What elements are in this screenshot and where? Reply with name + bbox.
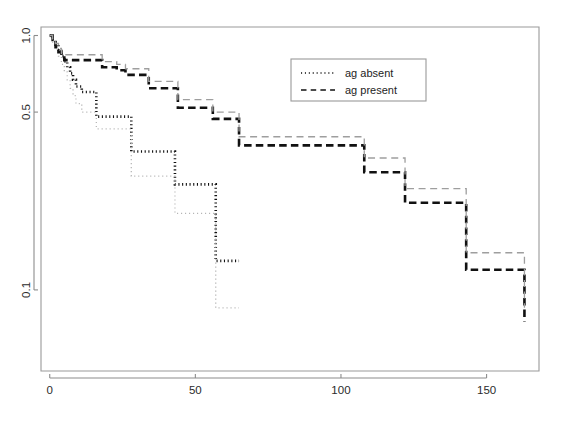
x-tick-label: 100: [331, 384, 350, 396]
x-axis: 050100150: [47, 374, 497, 396]
series-line-ag-present-upper-band: [50, 36, 525, 308]
y-tick-label: 1.0: [20, 28, 32, 44]
legend-label-0: ag absent: [345, 67, 393, 79]
data-series-layer: [50, 36, 525, 322]
plot-frame: [41, 27, 539, 371]
x-tick-label: 0: [47, 384, 53, 396]
plot-canvas: 050100150 1.00.50.1 ag absentag present: [0, 0, 567, 421]
chart-legend: ag absentag present: [291, 59, 426, 101]
series-line-ag-absent-lower-band: [50, 37, 239, 308]
y-tick-label: 0.5: [20, 104, 32, 120]
survival-chart-figure: 050100150 1.00.50.1 ag absentag present: [0, 0, 567, 421]
y-tick-label: 0.1: [20, 282, 32, 298]
x-tick-label: 150: [477, 384, 496, 396]
y-axis: 1.00.50.1: [20, 28, 38, 298]
x-tick-label: 50: [189, 384, 202, 396]
series-line-ag-present: [50, 36, 525, 322]
legend-label-1: ag present: [345, 84, 397, 96]
